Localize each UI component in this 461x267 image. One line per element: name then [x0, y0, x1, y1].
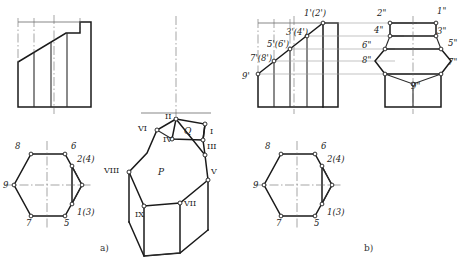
label-solid-iv: IV — [163, 136, 172, 144]
label-solid-v: V — [211, 168, 217, 176]
label-solid-vii: VII — [184, 200, 196, 208]
label-solid-ix: IX — [135, 211, 144, 219]
label-top-b-1-3: 1(3) — [327, 208, 344, 217]
label-top-a-9: 9 — [3, 181, 8, 190]
label-solid-vi: VI — [138, 125, 147, 133]
drawing-canvas: .ol { fill:none; stroke:#1a1a1a; stroke-… — [0, 0, 461, 267]
caption-subfigure-b: b) — [364, 244, 373, 253]
label-side-b-6: 6" — [362, 41, 371, 50]
label-side-b-7: 7" — [448, 58, 457, 67]
label-top-b-2-4: 2(4) — [327, 155, 344, 164]
label-side-b-2: 2" — [377, 9, 386, 18]
label-front-b-3-4: 3'(4') — [286, 28, 308, 37]
label-top-a-1-3: 1(3) — [77, 208, 94, 217]
label-side-b-5: 5" — [448, 39, 457, 48]
label-face-q: Q — [184, 127, 191, 136]
label-top-b-6: 6 — [321, 142, 326, 151]
label-top-a-8: 8 — [15, 142, 20, 151]
label-solid-iii: III — [207, 143, 216, 151]
label-side-b-1: 1" — [437, 7, 446, 16]
label-top-a-2-4: 2(4) — [77, 155, 94, 164]
label-front-b-7-8: 7'(8') — [250, 54, 272, 63]
label-front-b-5-6: 5'(6') — [267, 40, 289, 49]
label-top-b-7: 7 — [276, 219, 281, 228]
label-top-a-7: 7 — [26, 219, 31, 228]
label-top-b-9: 9 — [253, 181, 258, 190]
label-solid-viii: VIII — [104, 167, 119, 175]
label-top-b-5: 5 — [314, 219, 319, 228]
caption-subfigure-a: a) — [100, 244, 109, 253]
label-solid-i: I — [210, 128, 213, 136]
label-side-b-4: 4" — [374, 26, 383, 35]
label-side-b-3: 3" — [437, 27, 446, 36]
label-top-a-5: 5 — [64, 219, 69, 228]
label-side-b-9: 9" — [411, 82, 420, 91]
front-view-a — [18, 15, 91, 114]
label-top-b-8: 8 — [265, 142, 270, 151]
label-side-b-8: 8" — [362, 56, 371, 65]
front-view-b — [256, 16, 417, 114]
label-front-b-9: 9' — [242, 72, 250, 81]
label-face-p: P — [158, 168, 164, 177]
label-top-a-6: 6 — [71, 142, 76, 151]
label-front-b-1-2: 1'(2') — [304, 9, 326, 18]
label-solid-ii: II — [165, 113, 171, 121]
